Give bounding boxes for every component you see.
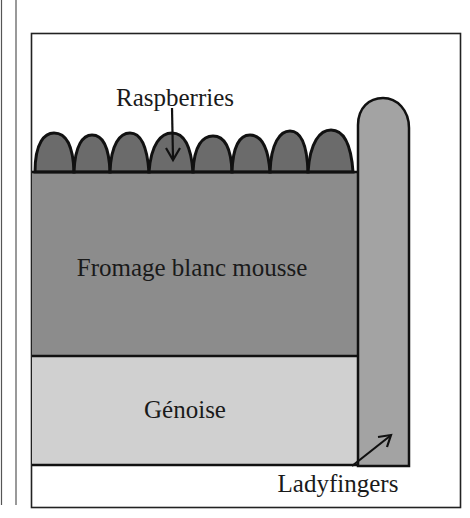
mousse-label: Fromage blanc mousse [77,254,308,281]
genoise-label: Génoise [144,396,226,423]
ladyfingers-label: Ladyfingers [278,470,399,497]
ladyfinger [358,98,409,466]
raspberries-label: Raspberries [116,84,234,111]
dessert-cross-section-diagram: Raspberries Fromage blanc mousse Génoise… [0,0,470,518]
